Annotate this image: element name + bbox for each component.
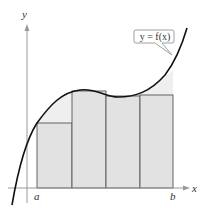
- x-axis-label: x: [191, 182, 197, 194]
- rectangle-2: [72, 91, 106, 188]
- x-axis-arrow-icon: [183, 186, 190, 191]
- interval-start-label: a: [34, 190, 40, 202]
- y-axis-label: y: [21, 8, 27, 20]
- rectangle-3: [106, 96, 140, 188]
- riemann-sum-diagram: y = f(x) y x a b: [0, 0, 205, 211]
- interval-end-label: b: [170, 190, 176, 202]
- rectangle-1: [37, 123, 72, 188]
- diagram-canvas: y = f(x) y x a b: [0, 0, 205, 211]
- curve-label-callout: y = f(x): [134, 30, 174, 55]
- y-axis-arrow-icon: [25, 24, 30, 31]
- curve-label: y = f(x): [140, 31, 171, 43]
- rectangle-4: [140, 95, 173, 188]
